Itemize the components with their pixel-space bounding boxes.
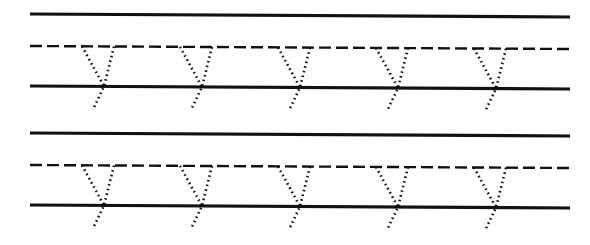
letter-stroke-left-diagonal (180, 166, 202, 206)
guide-line-top (30, 133, 570, 136)
letter-stroke-left-diagonal (180, 47, 202, 87)
letter-stroke-right-diagonal-with-tail (485, 49, 506, 112)
letter-stroke-right-diagonal-with-tail (191, 47, 212, 110)
letter-stroke-right-diagonal-with-tail (289, 167, 310, 230)
tracing-letter-y (474, 48, 506, 111)
letter-stroke-right-diagonal-with-tail (191, 166, 212, 229)
letter-stroke-left-diagonal (474, 167, 496, 207)
tracing-letter-y (376, 167, 408, 230)
guide-line-baseline (30, 86, 570, 89)
tracing-letter-y (278, 166, 310, 229)
guide-line-baseline (30, 205, 570, 208)
letter-stroke-left-diagonal (82, 46, 104, 86)
guide-line-top (30, 14, 570, 17)
letter-stroke-right-diagonal-with-tail (93, 46, 114, 109)
tracing-letter-y (180, 47, 212, 110)
tracing-letter-y (82, 165, 114, 228)
letter-stroke-left-diagonal (474, 48, 496, 88)
guide-line-middle-dashed (30, 165, 570, 168)
letter-stroke-left-diagonal (376, 48, 398, 88)
worksheet-canvas (0, 0, 590, 245)
tracing-letter-y (82, 46, 114, 109)
handwriting-worksheet (0, 0, 590, 245)
tracing-letter-y (278, 47, 310, 110)
tracing-letter-y (474, 167, 506, 230)
practice-row (30, 14, 570, 112)
letter-stroke-left-diagonal (82, 165, 104, 205)
letter-stroke-right-diagonal-with-tail (93, 165, 114, 228)
tracing-letter-y (376, 48, 408, 111)
letter-stroke-left-diagonal (278, 166, 300, 206)
practice-row (30, 133, 570, 231)
letter-stroke-right-diagonal-with-tail (387, 167, 408, 230)
letter-stroke-right-diagonal-with-tail (289, 48, 310, 111)
guide-line-middle-dashed (30, 46, 570, 49)
letter-stroke-left-diagonal (278, 47, 300, 87)
letter-stroke-right-diagonal-with-tail (387, 48, 408, 111)
tracing-letter-y (180, 166, 212, 229)
letter-stroke-left-diagonal (376, 167, 398, 207)
letter-stroke-right-diagonal-with-tail (485, 168, 506, 231)
